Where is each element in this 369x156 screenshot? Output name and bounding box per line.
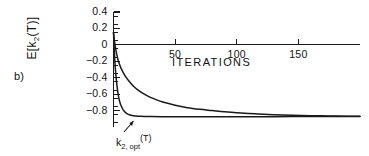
x-tick-label: 150	[283, 48, 313, 60]
y-tick-label: 0.2	[74, 21, 108, 33]
y-tick-label: 0.4	[74, 5, 108, 17]
plot-area	[0, 0, 369, 156]
x-axis-major-ticks	[175, 39, 298, 45]
annotation-arrow	[124, 121, 134, 132]
y-tick-label: −0.6	[74, 87, 108, 99]
y-tick-label: −0.8	[74, 104, 108, 116]
figure-panel-b: b) E[k2(T)] ITERATIONS k2, opt(T) 0.40.2…	[0, 0, 369, 156]
axes-group	[114, 12, 361, 127]
x-tick-label: 50	[160, 48, 190, 60]
x-tick-label: 100	[222, 48, 252, 60]
y-tick-label: −0.4	[74, 71, 108, 83]
y-tick-label: −0.2	[74, 54, 108, 66]
y-tick-label: 0	[74, 38, 108, 50]
